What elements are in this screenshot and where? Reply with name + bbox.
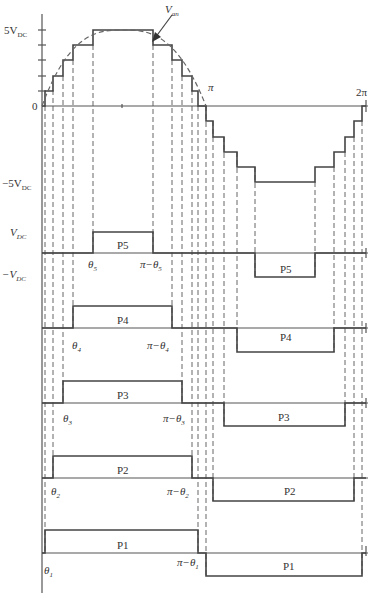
- svg-text:π−θ3: π−θ3: [163, 412, 185, 427]
- svg-text:θ1: θ1: [44, 564, 53, 579]
- waveform-diagram: Van 5VDC 0 −5VDC π 2π VDC −VDC P5 P5 θ5 …: [0, 0, 385, 600]
- svg-text:P5: P5: [280, 263, 292, 275]
- svg-text:P4: P4: [117, 314, 129, 326]
- svg-text:P2: P2: [117, 464, 129, 476]
- svg-text:π−θ4: π−θ4: [147, 339, 169, 354]
- vdc-label: VDC: [10, 226, 27, 241]
- svg-text:P1: P1: [283, 560, 295, 572]
- svg-text:π−θ1: π−θ1: [177, 556, 199, 571]
- svg-text:θ5: θ5: [88, 258, 97, 273]
- svg-text:θ2: θ2: [51, 485, 60, 500]
- switching-angle-guides: [45, 45, 362, 576]
- pulse-p3: P3 P3 θ3 π−θ3: [42, 381, 368, 427]
- svg-text:P1: P1: [117, 539, 129, 551]
- svg-text:P3: P3: [278, 411, 290, 423]
- pulse-p5: P5 P5 θ5 π−θ5: [42, 232, 368, 277]
- svg-text:θ3: θ3: [63, 412, 72, 427]
- svg-text:P4: P4: [280, 331, 292, 343]
- neg-vdc-label: −VDC: [2, 268, 26, 283]
- svg-text:P2: P2: [284, 485, 296, 497]
- neg-five-vdc-label: −5VDC: [2, 177, 32, 192]
- svg-text:θ4: θ4: [72, 339, 81, 354]
- two-pi-label: 2π: [356, 86, 368, 98]
- pulse-p4: P4 P4 θ4 π−θ4: [42, 306, 368, 354]
- svg-text:P5: P5: [117, 239, 129, 251]
- svg-text:P3: P3: [117, 389, 129, 401]
- pulse-p2: P2 P2 θ2 π−θ2: [42, 456, 368, 501]
- pulse-p1: P1 P1 θ1 π−θ1: [42, 530, 368, 579]
- zero-label: 0: [32, 100, 38, 112]
- svg-text:π−θ2: π−θ2: [167, 485, 189, 500]
- five-vdc-label: 5VDC: [4, 24, 28, 39]
- svg-text:π−θ5: π−θ5: [140, 258, 162, 273]
- van-label: Van: [165, 3, 179, 18]
- pi-label: π: [208, 81, 214, 93]
